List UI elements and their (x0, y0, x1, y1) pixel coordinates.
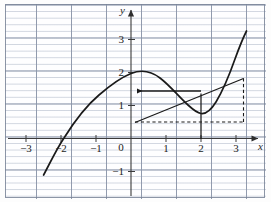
x-axis-label: x (258, 140, 263, 152)
graph-plot (0, 0, 271, 202)
y-axis-label: y (120, 4, 125, 16)
graph-screenshot: y x −3 −2 −1 1 2 3 0 3 2 1 −1 (0, 0, 271, 202)
y-tick-label-2: 2 (108, 66, 124, 78)
tangent-line (135, 79, 244, 123)
origin-label: 0 (114, 141, 128, 153)
y-tick-label-3: 3 (108, 33, 124, 45)
y-tick-label--1: −1 (104, 165, 124, 177)
x-tick-label--3: −3 (14, 142, 38, 154)
x-tick-label--2: −2 (49, 142, 73, 154)
x-tick-label-2: 2 (189, 142, 213, 154)
x-tick-label--1: −1 (84, 142, 108, 154)
y-tick-label-1: 1 (108, 99, 124, 111)
x-tick-label-1: 1 (154, 142, 178, 154)
function-curve (44, 31, 247, 175)
x-tick-label-3: 3 (224, 142, 248, 154)
